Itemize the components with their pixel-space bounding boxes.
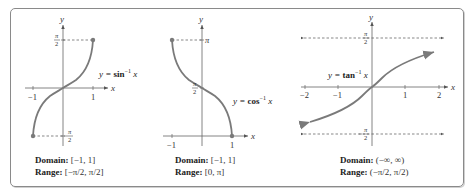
svg-text:2: 2 [193, 88, 196, 95]
function-label-arccos: y = cos−1 x [233, 93, 272, 107]
svg-text:2: 2 [55, 40, 58, 47]
x-axis-label: x [250, 131, 255, 141]
y-axis-label: y [59, 14, 64, 24]
svg-text:2: 2 [364, 134, 367, 141]
svg-text:2: 2 [68, 136, 71, 143]
endpoint-dot [230, 134, 234, 138]
svg-text:π: π [193, 80, 197, 87]
function-label-arcsin: y = sin−1 x [99, 66, 137, 80]
tick-label: −1 [333, 90, 342, 100]
svg-text:π: π [364, 30, 368, 37]
endpoint-dot [31, 134, 35, 138]
range-caption-arccos: Range: [0, π] [175, 167, 224, 178]
range-caption-arcsin: Range: [−π/2, π/2] [35, 167, 103, 178]
panel-arcsin [25, 25, 108, 146]
svg-text:2: 2 [364, 38, 367, 45]
tick-label: 1 [91, 92, 95, 102]
svg-text:π: π [55, 32, 59, 39]
svg-text:π: π [364, 126, 368, 133]
function-label-arctan: y = tan−1 x [328, 67, 368, 81]
tick-label: −2 [300, 90, 309, 100]
domain-caption-arctan: Domain: (−∞, ∞) [340, 155, 404, 166]
fraction-ticks: π2 π2 π2 π2 π2 [54, 30, 369, 143]
endpoint-dot [91, 38, 95, 42]
tick-label: 1 [403, 90, 407, 100]
y-axis-label: y [368, 12, 373, 22]
tick-label: −1 [28, 92, 37, 102]
svg-text:π: π [68, 128, 72, 135]
endpoint-dot [170, 38, 174, 42]
tick-label: −1 [167, 140, 176, 150]
x-axis-label: x [110, 83, 115, 93]
tick-label: 1 [230, 140, 234, 150]
tick-label: 2 [437, 90, 441, 100]
domain-caption-arcsin: Domain: [−1, 1] [35, 155, 95, 166]
range-caption-arctan: Range: (−π/2, π/2) [340, 167, 408, 178]
domain-caption-arccos: Domain: [−1, 1] [175, 155, 235, 166]
panel-arctan [301, 22, 448, 146]
tick-label: π [205, 35, 210, 45]
x-axis-label: x [450, 82, 455, 92]
y-axis-label: y [198, 14, 203, 24]
